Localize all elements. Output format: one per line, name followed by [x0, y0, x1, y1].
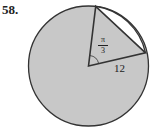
angle-numerator: π [98, 36, 108, 44]
radius-label: 12 [114, 62, 125, 74]
angle-label: π 3 [98, 36, 108, 55]
circle-sector-diagram [0, 0, 159, 131]
angle-denominator: 3 [98, 47, 108, 55]
